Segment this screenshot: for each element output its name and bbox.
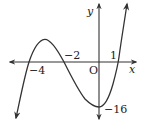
y-axis-label: y [86,5,94,18]
origin-label: O [89,64,98,77]
root-label-minus-4: −4 [29,64,45,77]
root-label-1: 1 [110,49,117,62]
root-label-minus-2: −2 [64,49,80,62]
function-graph: y x O −4 −2 1 −16 [0,0,141,126]
x-axis-label: x [129,63,136,76]
y-intercept-label: −16 [104,103,127,116]
